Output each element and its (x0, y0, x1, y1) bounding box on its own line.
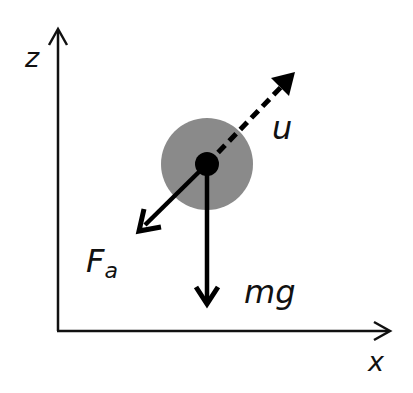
x-axis-label: x (367, 346, 385, 377)
z-axis-label: z (24, 42, 40, 73)
drag-force-subscript: a (104, 258, 117, 283)
center-of-mass-dot (195, 152, 219, 176)
velocity-label: u (272, 109, 292, 147)
drag-force-label: Fa (86, 242, 118, 283)
free-body-diagram: z x u Fa mg (0, 0, 413, 393)
drag-force-symbol: F (86, 242, 105, 280)
gravity-label: mg (244, 273, 295, 311)
